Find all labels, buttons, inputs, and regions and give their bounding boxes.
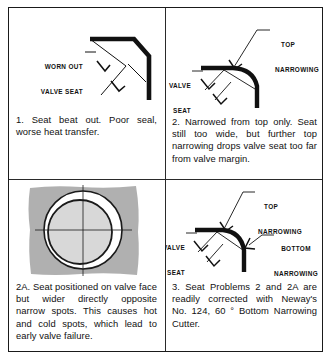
panel-2: TOP NARROWING VALVE SEAT 2. Narrowed fro… [165,8,324,179]
label-line-2: SEAT [165,269,185,277]
leader-line-valve-seat-3 [186,233,220,266]
leader-line-worn-seat [85,52,125,91]
panel-4-caption: 3. Seat Problems 2 and 2A are readily co… [165,281,324,330]
panel-3: 2A. Seat positioned on valve face but wi… [9,180,164,353]
panel-4-artwork: TOP NARROWING VALVE SEAT BOTTOM NARROWIN… [165,180,324,280]
panel-1: WORN OUT VALVE SEAT 1. Seat beat out. Po… [9,8,164,179]
valve-seat-inner-circle [48,200,112,264]
leader-line-top-narrowing-3 [220,192,255,231]
figure-frame: WORN OUT VALVE SEAT 1. Seat beat out. Po… [8,7,323,352]
valve-seat-figure: WORN OUT VALVE SEAT 1. Seat beat out. Po… [0,0,331,360]
label-line-1: WORN OUT [21,63,83,71]
label-line-1: VALVE [165,82,191,90]
leader-line-top-narrowing-2 [229,30,270,69]
label-line-1: TOP [258,203,313,211]
label-line-2: SEAT [165,107,191,115]
panel-1-caption: 1. Seat beat out. Poor seal, worse heat … [9,114,164,138]
panel-3-caption: 2A. Seat positioned on valve face but wi… [9,281,164,342]
label-line-2: NARROWING [275,66,324,74]
label-line-2: NARROWING [269,270,323,278]
label-line-1: TOP [275,41,324,49]
panel-3-artwork [9,180,164,280]
label-top-narrowing-2: TOP NARROWING [275,25,324,91]
label-line-1: VALVE [165,244,185,252]
leader-line-valve-seat-2 [192,71,227,104]
panel-2-caption: 2. Narrowed from top only. Seat still to… [165,116,324,165]
panel-4: TOP NARROWING VALVE SEAT BOTTOM NARROWIN… [165,180,324,353]
panel-2-artwork: TOP NARROWING VALVE SEAT [165,8,324,116]
label-worn-out-valve-seat: WORN OUT VALVE SEAT [21,47,83,113]
panel-1-artwork: WORN OUT VALVE SEAT [9,8,164,108]
label-line-2: VALVE SEAT [21,88,83,96]
label-line-1: BOTTOM [269,245,323,253]
